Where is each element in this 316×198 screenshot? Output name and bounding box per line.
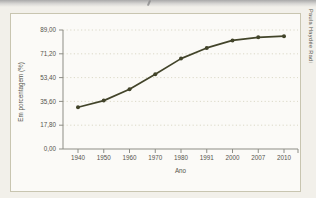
svg-text:1980: 1980: [174, 154, 189, 161]
credit-text: Paula Haydée Radi: [308, 9, 314, 129]
svg-text:71,20: 71,20: [40, 50, 56, 57]
svg-text:1970: 1970: [148, 154, 163, 161]
scan-edge-strip: [0, 0, 316, 7]
svg-text:35,60: 35,60: [40, 98, 56, 105]
svg-text:2000: 2000: [225, 154, 240, 161]
svg-text:Em porcentagem (%): Em porcentagem (%): [17, 62, 25, 122]
svg-text:17,80: 17,80: [40, 121, 56, 128]
svg-text:89,00: 89,00: [40, 26, 56, 33]
svg-text:2010: 2010: [277, 154, 292, 161]
svg-text:Ano: Ano: [175, 167, 187, 174]
svg-text:1950: 1950: [97, 154, 112, 161]
svg-text:1940: 1940: [71, 154, 86, 161]
svg-text:1960: 1960: [122, 154, 137, 161]
svg-text:1991: 1991: [200, 154, 215, 161]
page: 0,0017,8035,6053,4071,2089,0019401950196…: [0, 0, 316, 198]
urbanization-line-chart: 0,0017,8035,6053,4071,2089,0019401950196…: [11, 14, 300, 191]
svg-text:53,40: 53,40: [40, 74, 56, 81]
chart-card: 0,0017,8035,6053,4071,2089,0019401950196…: [10, 13, 301, 192]
svg-text:0,00: 0,00: [44, 145, 57, 152]
svg-text:2007: 2007: [251, 154, 266, 161]
